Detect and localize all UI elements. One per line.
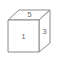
top-face-label: 5	[27, 10, 32, 19]
front-face-label: 1	[21, 32, 26, 41]
cube-drawing: 5 1 3	[0, 0, 59, 62]
right-face-label: 3	[42, 27, 47, 36]
cube-figure: 5 1 3	[0, 0, 59, 62]
